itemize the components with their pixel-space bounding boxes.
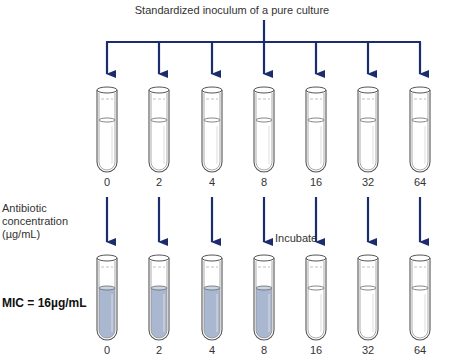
top-tube-3 (254, 87, 274, 172)
antibiotic-concentration-label: Antibiotic concentration (µg/mL) (2, 202, 68, 241)
inoculum-distribution-arrows (106, 20, 421, 42)
top-concentration-label: 16 (301, 176, 331, 188)
top-concentration-label: 8 (249, 176, 279, 188)
bottom-tube-3 (254, 255, 274, 340)
top-concentration-label: 0 (92, 176, 122, 188)
top-tube-6 (410, 87, 430, 172)
top-concentration-label: 2 (144, 176, 174, 188)
top-tube-2 (202, 87, 222, 172)
tube-liquid (151, 120, 167, 170)
tube-liquid (99, 288, 115, 338)
top-tubes (97, 87, 430, 172)
top-tube-1 (149, 87, 169, 172)
top-arrows (107, 42, 420, 74)
top-concentration-label: 64 (405, 176, 435, 188)
tube-liquid (99, 120, 115, 170)
bottom-tube-4 (306, 255, 326, 340)
tube-liquid (308, 288, 324, 338)
top-tube-5 (358, 87, 378, 172)
bottom-concentration-label: 16 (301, 344, 331, 356)
tube-liquid (360, 120, 376, 170)
tube-liquid (256, 288, 272, 338)
tube-liquid (256, 120, 272, 170)
tube-liquid (151, 288, 167, 338)
bottom-concentration-label: 0 (92, 344, 122, 356)
top-tube-4 (306, 87, 326, 172)
bottom-tube-5 (358, 255, 378, 340)
top-tube-0 (97, 87, 117, 172)
tube-liquid (360, 288, 376, 338)
bottom-concentration-label: 64 (405, 344, 435, 356)
tube-liquid (204, 288, 220, 338)
tube-liquid (308, 120, 324, 170)
top-concentration-label: 4 (197, 176, 227, 188)
bottom-concentration-label: 4 (197, 344, 227, 356)
bottom-concentration-label: 32 (353, 344, 383, 356)
mic-result-label: MIC = 16µg/mL (2, 296, 87, 310)
bottom-concentration-label: 8 (249, 344, 279, 356)
bottom-concentration-label: 2 (144, 344, 174, 356)
bottom-tube-2 (202, 255, 222, 340)
bottom-tube-0 (97, 255, 117, 340)
top-concentration-label: 32 (353, 176, 383, 188)
bottom-tube-6 (410, 255, 430, 340)
incubate-label: Incubate (275, 232, 317, 244)
tube-liquid (412, 120, 428, 170)
incubate-arrows (107, 197, 420, 242)
tube-liquid (204, 120, 220, 170)
tube-liquid (412, 288, 428, 338)
bottom-tube-1 (149, 255, 169, 340)
bottom-tubes (97, 255, 430, 340)
